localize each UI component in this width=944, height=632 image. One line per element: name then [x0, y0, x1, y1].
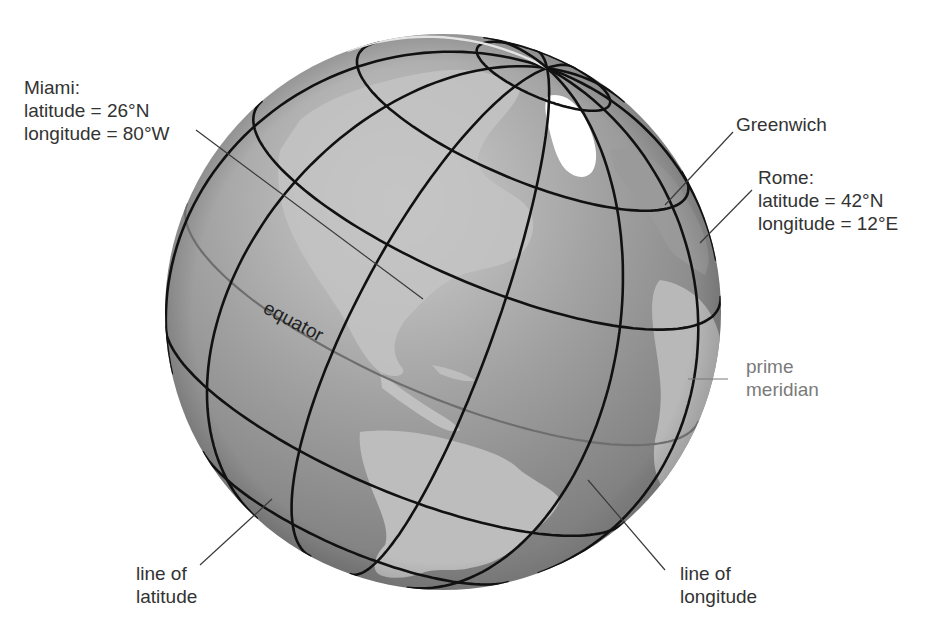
prime-meridian-line2: meridian [746, 378, 819, 401]
miami-longitude: longitude = 80°W [24, 122, 169, 145]
rome-title: Rome: [758, 166, 898, 189]
prime-meridian-label: prime meridian [746, 355, 819, 401]
miami-title: Miami: [24, 76, 169, 99]
greenwich-text: Greenwich [736, 113, 827, 136]
rome-longitude: longitude = 12°E [758, 212, 898, 235]
globe-rim-shade [165, 34, 721, 590]
miami-latitude: latitude = 26°N [24, 99, 169, 122]
rome-latitude: latitude = 42°N [758, 189, 898, 212]
rome-label: Rome: latitude = 42°N longitude = 12°E [758, 166, 898, 235]
line-of-latitude-label: line of latitude [136, 562, 197, 608]
miami-label: Miami: latitude = 26°N longitude = 80°W [24, 76, 169, 145]
line-of-latitude-line2: latitude [136, 585, 197, 608]
line-of-longitude-line2: longitude [680, 585, 757, 608]
latitude-leader-line [200, 499, 272, 565]
line-of-latitude-line1: line of [136, 562, 197, 585]
line-of-longitude-label: line of longitude [680, 562, 757, 608]
prime-meridian-line1: prime [746, 355, 819, 378]
rome-leader-line [700, 190, 752, 243]
line-of-longitude-line1: line of [680, 562, 757, 585]
globe-diagram: equator Miami: latitude = 26°N longitude… [0, 0, 944, 632]
greenwich-label: Greenwich [736, 113, 827, 136]
